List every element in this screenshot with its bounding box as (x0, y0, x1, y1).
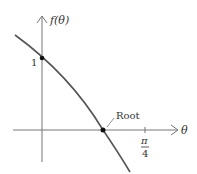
root-point (101, 128, 106, 133)
xtick-denominator: 4 (142, 148, 148, 159)
y-axis-label: f(θ) (49, 14, 69, 27)
x-axis-label: θ (181, 124, 188, 137)
y-intercept-label: 1 (31, 57, 37, 68)
function-curve (15, 35, 130, 172)
root-leader-line (107, 118, 114, 127)
y-intercept-point (40, 56, 45, 61)
xtick-numerator: π (140, 135, 148, 146)
graph: f(θ) θ 1 Root π 4 (0, 0, 197, 174)
root-label: Root (116, 110, 140, 121)
